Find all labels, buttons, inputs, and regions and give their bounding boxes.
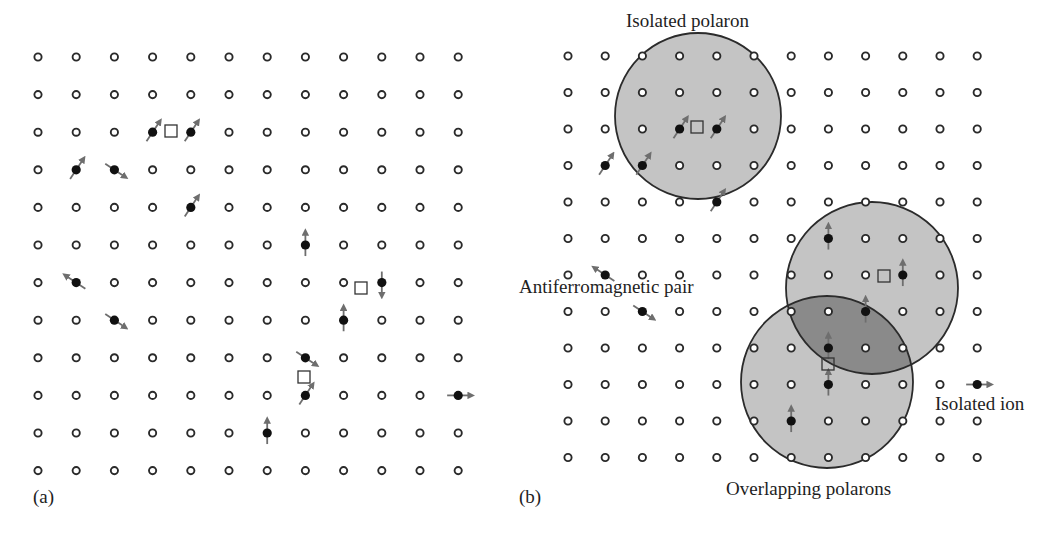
lattice-site [825, 52, 832, 59]
lattice-site [974, 308, 981, 315]
ion-dot [301, 240, 310, 249]
lattice-site [899, 308, 906, 315]
lattice-site [149, 467, 156, 474]
isolated-polaron-label: Isolated polaron [626, 10, 749, 32]
lattice-site [825, 417, 832, 424]
magnetic-ion-up-right [70, 159, 83, 179]
lattice-site [750, 235, 757, 242]
lattice-site [111, 91, 118, 98]
panel-a-lattice [34, 53, 471, 474]
lattice-site [264, 467, 271, 474]
lattice-site [825, 125, 832, 132]
lattice-site [974, 89, 981, 96]
lattice-site [73, 354, 80, 361]
lattice-site [974, 417, 981, 424]
lattice-site [750, 417, 757, 424]
lattice-site [676, 454, 683, 461]
lattice-site [936, 89, 943, 96]
magnetic-ion-up-right [185, 121, 198, 141]
lattice-site [602, 235, 609, 242]
lattice-site [788, 344, 795, 351]
lattice-site [416, 317, 423, 324]
lattice-site [34, 129, 41, 136]
lattice-site [564, 89, 571, 96]
lattice-site [378, 354, 385, 361]
lattice-site [862, 198, 869, 205]
ion-dot [72, 278, 81, 287]
lattice-site [713, 308, 720, 315]
lattice-site [639, 198, 646, 205]
lattice-site [149, 429, 156, 436]
lattice-site [788, 125, 795, 132]
lattice-site [378, 91, 385, 98]
lattice-site [602, 381, 609, 388]
lattice-site [34, 354, 41, 361]
lattice-site [713, 52, 720, 59]
lattice-site [34, 204, 41, 211]
lattice-site [225, 166, 232, 173]
lattice-site [111, 354, 118, 361]
lattice-site [302, 204, 309, 211]
lattice-site [149, 91, 156, 98]
ion-dot [339, 316, 348, 325]
lattice-site [187, 354, 194, 361]
lattice-site [455, 354, 462, 361]
lattice-site [225, 53, 232, 60]
lattice-site [225, 91, 232, 98]
magnetic-ion-down-right [296, 352, 316, 365]
lattice-site [302, 91, 309, 98]
lattice-site [455, 429, 462, 436]
magnetic-ion-right [447, 391, 471, 400]
lattice-site [899, 417, 906, 424]
ion-dot [712, 124, 721, 133]
lattice-site [974, 235, 981, 242]
magnetic-ion-up [301, 232, 310, 256]
lattice-site [862, 162, 869, 169]
lattice-site [455, 279, 462, 286]
lattice-site [187, 91, 194, 98]
lattice-site [750, 52, 757, 59]
lattice-site [602, 198, 609, 205]
lattice-site [825, 89, 832, 96]
lattice-site [225, 317, 232, 324]
lattice-site [340, 354, 347, 361]
lattice-site [187, 392, 194, 399]
lattice-site [602, 89, 609, 96]
panel-a-label: (a) [33, 486, 54, 508]
lattice-site [899, 454, 906, 461]
magnetic-ion-down-right [105, 314, 125, 327]
lattice-site [899, 162, 906, 169]
lattice-site [936, 271, 943, 278]
lattice-site [862, 454, 869, 461]
magnetic-ion-up-right [599, 155, 612, 175]
lattice-site [302, 279, 309, 286]
magnetic-ion-down [377, 272, 386, 296]
lattice-site [187, 241, 194, 248]
lattice-site [750, 308, 757, 315]
lattice-site [564, 235, 571, 242]
lattice-site [149, 317, 156, 324]
lattice-site [899, 89, 906, 96]
lattice-site [111, 392, 118, 399]
lattice-site [264, 354, 271, 361]
lattice-site [713, 454, 720, 461]
lattice-site [713, 89, 720, 96]
lattice-site [974, 125, 981, 132]
carrier-square-icon [165, 125, 177, 137]
lattice-site [416, 53, 423, 60]
lattice-site [750, 381, 757, 388]
lattice-site [899, 198, 906, 205]
lattice-site [974, 344, 981, 351]
lattice-site [750, 344, 757, 351]
ion-dot [861, 307, 870, 316]
lattice-site [455, 53, 462, 60]
lattice-site [788, 454, 795, 461]
lattice-site [974, 271, 981, 278]
lattice-site [676, 344, 683, 351]
lattice-site [750, 454, 757, 461]
ion-dot [824, 380, 833, 389]
lattice-site [416, 241, 423, 248]
ion-dot [638, 307, 647, 316]
lattice-site [564, 125, 571, 132]
lattice-site [73, 53, 80, 60]
